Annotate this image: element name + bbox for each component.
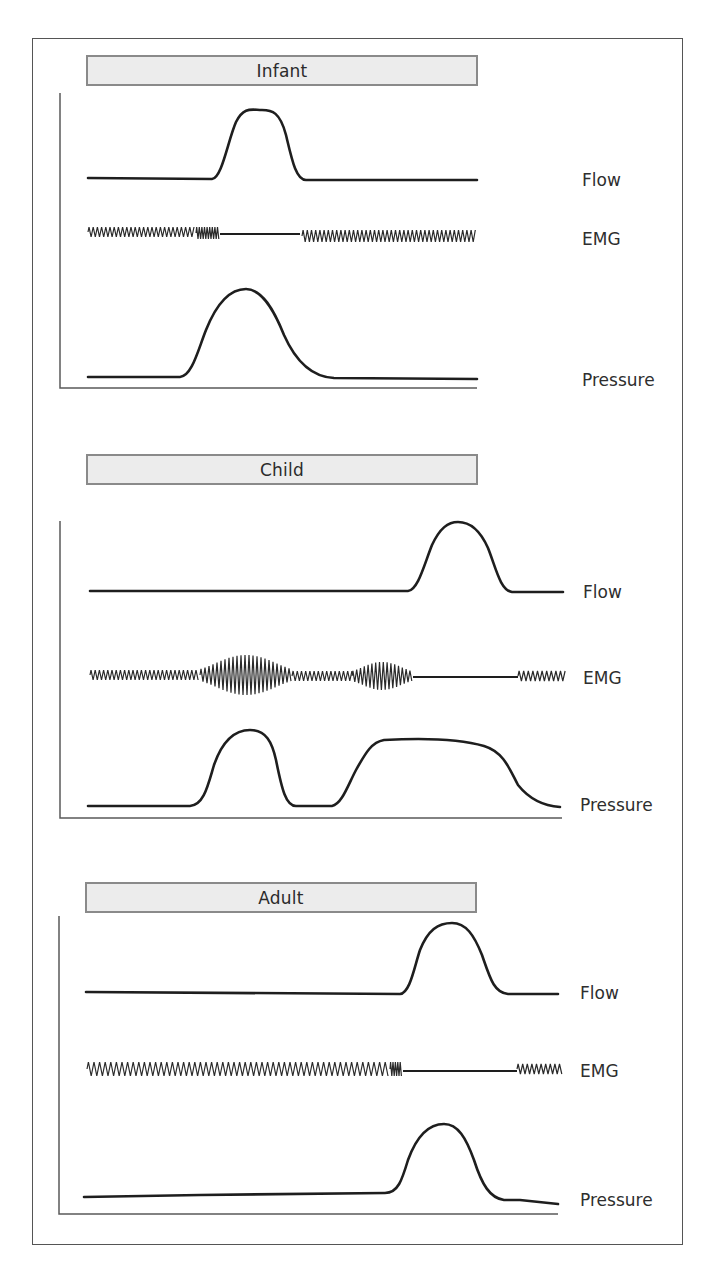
child-pressure-label: Pressure [580,795,653,815]
child-pressure-trace [88,730,560,807]
adult-title: Adult [258,888,303,908]
child-title: Child [260,460,304,480]
infant-emg-label: EMG [582,229,621,249]
infant-flow-trace [88,110,477,180]
child-title-banner: Child [86,454,478,485]
infant-flow-label: Flow [582,170,621,190]
adult-flow-label: Flow [580,983,619,1003]
panel-infant [60,93,477,388]
adult-emg-label: EMG [580,1061,619,1081]
adult-flow-trace [86,923,558,994]
infant-pressure-trace [88,289,477,379]
child-flow-label: Flow [583,582,622,602]
infant-title-banner: Infant [86,55,478,86]
child-emg-trace [90,655,565,695]
adult-pressure-label: Pressure [580,1190,653,1210]
panel-adult [59,916,562,1214]
infant-emg-trace [88,227,475,242]
physiology-diagram: Infant Child Adult Flow EMG Pressure Flo… [0,0,710,1275]
child-axis [60,521,562,818]
child-flow-trace [90,522,563,592]
adult-pressure-trace [84,1124,558,1204]
panel-child [60,521,565,818]
infant-title: Infant [257,61,308,81]
child-emg-label: EMG [583,668,622,688]
infant-pressure-label: Pressure [582,370,655,390]
traces-canvas [0,0,710,1275]
adult-emg-trace [87,1062,562,1076]
adult-title-banner: Adult [85,882,477,913]
